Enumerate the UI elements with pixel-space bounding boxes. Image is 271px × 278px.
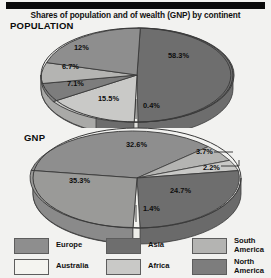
gnp-slice-asia — [137, 171, 239, 228]
legend-south-america: South America — [192, 236, 264, 255]
legend-swatch-australia — [14, 259, 49, 275]
legend-swatch-south-america — [192, 238, 227, 254]
legend-swatch-europe — [14, 238, 49, 254]
pop-label-africa: 15.5% — [98, 94, 119, 103]
legend-label-australia: Australia — [56, 262, 89, 271]
gnp-label-asia: 24.7% — [170, 186, 191, 195]
population-section-label: POPULATION — [10, 20, 74, 31]
pop-slice-australia — [134, 75, 138, 122]
legend-north-america: North America — [192, 257, 264, 276]
gnp-label-europe: 32.6% — [126, 140, 147, 149]
legend-swatch-africa — [106, 259, 141, 275]
gnp-label-australia: 1.4% — [143, 204, 160, 213]
legend-label-south-america: South America — [234, 237, 264, 254]
gnp-label-africa: 2.2% — [203, 163, 220, 172]
pop-slice-europe — [47, 28, 141, 75]
legend-asia: Asia — [106, 236, 170, 255]
legend-column-3: South America North America — [192, 236, 264, 278]
top-black-bar — [6, 2, 265, 9]
pop-label-south-america: 6.7% — [62, 62, 79, 71]
pop-slice-africa — [53, 75, 137, 122]
legend-column-1: Europe Australia — [14, 236, 89, 278]
chart-title: Shares of population and of wealth (GNP)… — [0, 10, 271, 20]
legend-label-europe: Europe — [56, 241, 82, 250]
legend-swatch-asia — [106, 238, 141, 254]
legend-label-asia: Asia — [148, 241, 164, 250]
legend-australia: Australia — [14, 257, 89, 276]
gnp-section-label: GNP — [24, 132, 45, 143]
legend-column-2: Asia Africa — [106, 236, 170, 278]
gnp-slice-europe — [31, 131, 208, 178]
pop-label-asia: 58.3% — [168, 51, 189, 60]
gnp-slice-africa — [137, 160, 238, 178]
gnp-label-north-america: 35.3% — [69, 176, 90, 185]
legend-label-africa: Africa — [148, 262, 170, 271]
legend-africa: Africa — [106, 257, 170, 276]
pop-slice-south-america — [41, 63, 137, 84]
pop-label-europe: 12% — [74, 43, 89, 52]
legend-label-north-america: North America — [234, 258, 264, 275]
chart-page: Shares of population and of wealth (GNP)… — [0, 0, 271, 278]
gnp-label-south-america: 3.7% — [196, 147, 213, 156]
pop-slice-north-america — [42, 75, 137, 102]
gnp-slice-australia — [133, 178, 140, 228]
legend-europe: Europe — [14, 236, 89, 255]
pop-slice-asia — [93, 28, 234, 122]
pop-label-australia: 0.4% — [143, 101, 160, 110]
legend: Europe Australia Asia Africa South Ameri… — [0, 236, 271, 278]
legend-swatch-north-america — [192, 259, 227, 275]
pop-label-north-america: 7.1% — [67, 79, 84, 88]
